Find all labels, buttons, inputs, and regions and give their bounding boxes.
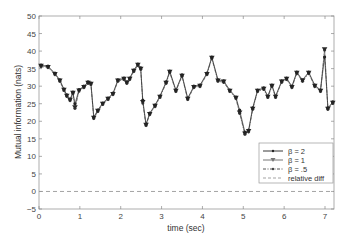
- x-tick-label: 5: [241, 212, 246, 221]
- svg-text:β = 1: β = 1: [288, 156, 305, 165]
- y-tick-label: 40: [27, 47, 36, 56]
- x-tick-label: 6: [282, 212, 287, 221]
- y-tick-label: 25: [27, 100, 36, 109]
- x-tick-label: 7: [323, 212, 328, 221]
- y-tick-label: 45: [27, 30, 36, 39]
- x-tick-label: 0: [37, 212, 42, 221]
- x-tick-label: 2: [118, 212, 123, 221]
- x-axis-label: time (sec): [167, 223, 204, 233]
- y-tick-label: 30: [27, 82, 36, 91]
- svg-text:β = 2: β = 2: [288, 147, 305, 156]
- y-axis-label: Mutual information (nats): [13, 65, 23, 159]
- y-tick-label: 20: [27, 117, 36, 126]
- svg-text:relative diff: relative diff: [288, 174, 325, 183]
- x-tick-label: 4: [200, 212, 205, 221]
- mutual-information-chart: −505101520253035404550 01234567 time (se…: [0, 0, 349, 246]
- svg-text:β = .5: β = .5: [288, 165, 307, 174]
- y-tick-label: −5: [27, 205, 37, 214]
- y-tick-label: 0: [32, 187, 37, 196]
- x-tick-label: 3: [159, 212, 164, 221]
- y-tick-label: 10: [27, 152, 36, 161]
- x-tick-label: 1: [78, 212, 83, 221]
- legend: β = 2 β = 1 β = .5 relative diff: [259, 143, 333, 183]
- y-tick-label: 50: [27, 12, 36, 21]
- y-tick-label: 35: [27, 65, 36, 74]
- y-tick-label: 15: [27, 135, 36, 144]
- dot-marker-icon: [272, 168, 274, 170]
- dot-marker-icon: [272, 150, 274, 152]
- y-tick-label: 5: [32, 170, 37, 179]
